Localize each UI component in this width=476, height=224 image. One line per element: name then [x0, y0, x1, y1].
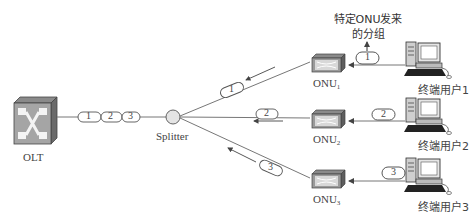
branch-fiber-1: [180, 62, 310, 116]
computer-icon-3: [404, 158, 452, 195]
branch-packet-2-label: 2: [264, 107, 269, 118]
branch-fiber-3: [180, 118, 310, 178]
splitter-node: [166, 110, 180, 124]
user-2-label: 终端用户2: [418, 137, 469, 153]
annotation-line-1: 特定ONU发来: [330, 12, 406, 27]
olt-label: OLT: [23, 151, 43, 163]
onu-3-label: ONU3: [313, 193, 340, 207]
user-packet-3-label: 3: [391, 166, 396, 177]
branch-packet-1-label: 1: [229, 83, 234, 94]
computer-icon-1: [404, 42, 452, 79]
branch-fiber-2: [180, 117, 310, 118]
user-packet-2-label: 2: [381, 108, 386, 119]
user-1-label: 终端用户1: [418, 81, 469, 97]
onu-device-1: [312, 54, 345, 72]
trunk-packet-2-label: 2: [108, 110, 113, 121]
user-packet-1-label: 1: [365, 51, 370, 62]
onu-2-label: ONU2: [313, 133, 340, 147]
upstream-arrow-3: [228, 148, 256, 162]
user-3-label: 终端用户3: [418, 198, 469, 214]
trunk-packet-1-label: 1: [86, 110, 91, 121]
annotation-text: 特定ONU发来 的分组: [330, 12, 406, 42]
computer-icon-2: [404, 98, 452, 135]
branch-packet-3-label: 3: [268, 161, 273, 172]
onu-device-2: [312, 110, 345, 128]
splitter-label: Splitter: [156, 130, 188, 142]
onu-device-3: [312, 170, 345, 188]
trunk-packet-3-label: 3: [128, 110, 133, 121]
olt-device: [14, 97, 57, 144]
annotation-line-2: 的分组: [330, 27, 406, 42]
onu-1-label: ONU1: [313, 77, 340, 91]
